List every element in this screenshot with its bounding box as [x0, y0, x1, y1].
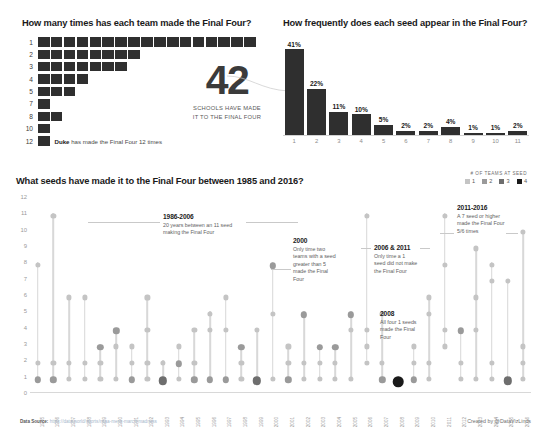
- seed-dot[interactable]: [457, 328, 463, 334]
- seed-dot[interactable]: [67, 377, 72, 382]
- seed-dot[interactable]: [67, 295, 72, 300]
- seed-dot[interactable]: [379, 377, 385, 383]
- year-column[interactable]: [265, 197, 281, 393]
- seed-dot[interactable]: [317, 360, 322, 365]
- seed-dot[interactable]: [411, 344, 416, 349]
- seed-dot[interactable]: [474, 377, 479, 382]
- seed-dot[interactable]: [442, 344, 447, 349]
- seed-dot[interactable]: [442, 213, 447, 218]
- seed-dot[interactable]: [521, 230, 526, 235]
- seed-dot[interactable]: [270, 377, 275, 382]
- seed-dot[interactable]: [364, 328, 369, 333]
- seed-dot[interactable]: [474, 295, 479, 300]
- year-column[interactable]: [249, 197, 265, 393]
- seed-dot[interactable]: [82, 295, 87, 300]
- seed-dot[interactable]: [489, 360, 494, 365]
- seed-dot[interactable]: [364, 213, 369, 218]
- seed-dot[interactable]: [333, 360, 338, 365]
- seed-dot[interactable]: [51, 213, 56, 218]
- seed-dot[interactable]: [239, 360, 244, 365]
- year-column[interactable]: [390, 197, 406, 393]
- seed-dot[interactable]: [442, 262, 447, 267]
- year-column[interactable]: [359, 197, 375, 393]
- seed-dot[interactable]: [285, 377, 291, 383]
- year-column[interactable]: [437, 197, 453, 393]
- seed-dot[interactable]: [286, 344, 291, 349]
- seed-dot[interactable]: [67, 360, 72, 365]
- seed-dot[interactable]: [458, 360, 463, 365]
- seed-dot[interactable]: [348, 311, 354, 317]
- seed-dot[interactable]: [286, 360, 291, 365]
- seed-dot[interactable]: [223, 328, 228, 333]
- seed-dot[interactable]: [238, 344, 244, 350]
- seed-dot[interactable]: [176, 360, 182, 366]
- legend-item[interactable]: 4: [517, 178, 527, 184]
- seed-dot[interactable]: [97, 344, 103, 350]
- seed-dot[interactable]: [427, 295, 432, 300]
- seed-dot[interactable]: [348, 328, 353, 333]
- seed-dot[interactable]: [332, 344, 338, 350]
- seed-dot[interactable]: [114, 344, 119, 349]
- seed-dot[interactable]: [333, 377, 338, 382]
- seed-dot[interactable]: [192, 360, 197, 365]
- seed-dot[interactable]: [192, 328, 197, 333]
- seed-dot[interactable]: [129, 360, 134, 365]
- seed-dot[interactable]: [50, 377, 56, 383]
- seed-dot[interactable]: [427, 377, 432, 382]
- seed-dot[interactable]: [129, 344, 134, 349]
- seed-dot[interactable]: [254, 328, 259, 333]
- year-column[interactable]: [406, 197, 422, 393]
- seed-dot[interactable]: [223, 377, 229, 383]
- seed-dot[interactable]: [505, 279, 510, 284]
- seed-dot[interactable]: [113, 328, 119, 334]
- seed-dot[interactable]: [427, 311, 432, 316]
- seed-dot[interactable]: [521, 344, 526, 349]
- year-column[interactable]: [30, 197, 46, 393]
- seed-dot[interactable]: [129, 377, 135, 383]
- seed-dot[interactable]: [442, 328, 447, 333]
- seed-dot[interactable]: [427, 360, 432, 365]
- seed-dot[interactable]: [35, 360, 40, 365]
- seed-dot[interactable]: [207, 377, 213, 383]
- seed-dot[interactable]: [239, 377, 244, 382]
- legend-item[interactable]: 1: [465, 178, 475, 184]
- seed-dot[interactable]: [207, 328, 212, 333]
- seed-dot[interactable]: [410, 377, 416, 383]
- year-column[interactable]: [77, 197, 93, 393]
- seed-dot[interactable]: [160, 360, 165, 365]
- year-column[interactable]: [46, 197, 62, 393]
- seed-dot[interactable]: [35, 262, 40, 267]
- year-column[interactable]: [281, 197, 297, 393]
- seed-dot[interactable]: [35, 377, 41, 383]
- year-column[interactable]: [374, 197, 390, 393]
- year-column[interactable]: [108, 197, 124, 393]
- seed-dot[interactable]: [114, 377, 119, 382]
- seed-dot[interactable]: [145, 360, 150, 365]
- seed-dot[interactable]: [393, 377, 404, 388]
- seed-dot[interactable]: [269, 262, 275, 268]
- seed-dot[interactable]: [474, 246, 479, 251]
- seed-dot[interactable]: [223, 295, 228, 300]
- seed-dot[interactable]: [489, 377, 494, 382]
- year-column[interactable]: [421, 197, 437, 393]
- seed-dot[interactable]: [458, 377, 463, 382]
- seed-dot[interactable]: [317, 377, 322, 382]
- seed-dot[interactable]: [145, 377, 150, 382]
- seed-dot[interactable]: [521, 377, 526, 382]
- seed-dot[interactable]: [159, 377, 167, 385]
- seed-dot[interactable]: [301, 360, 306, 365]
- seed-dot[interactable]: [503, 377, 511, 385]
- seed-dot[interactable]: [253, 377, 261, 385]
- year-column[interactable]: [515, 197, 531, 393]
- year-column[interactable]: [312, 197, 328, 393]
- seed-dot[interactable]: [364, 344, 369, 349]
- seed-dot[interactable]: [489, 279, 494, 284]
- seed-dot[interactable]: [82, 360, 87, 365]
- year-column[interactable]: [61, 197, 77, 393]
- seed-dot[interactable]: [51, 360, 56, 365]
- legend-item[interactable]: 2: [482, 178, 492, 184]
- year-column[interactable]: [327, 197, 343, 393]
- seed-dot[interactable]: [98, 377, 103, 382]
- seed-dot[interactable]: [176, 377, 181, 382]
- seed-dot[interactable]: [145, 295, 150, 300]
